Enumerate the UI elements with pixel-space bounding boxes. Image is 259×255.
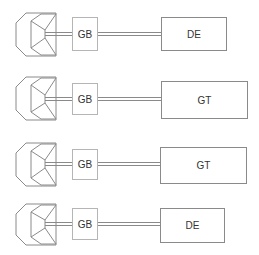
row-4: GBDE	[16, 204, 225, 245]
gearbox-box: GB	[73, 150, 98, 180]
driver-label: GT	[197, 160, 211, 171]
row-2: GBGT	[16, 77, 248, 120]
gearbox-box: GB	[73, 84, 98, 115]
shaft	[45, 223, 160, 226]
gearbox-label: GB	[78, 219, 93, 230]
drivetrain-diagram: GBDEGBGTGBGTGBDE	[0, 0, 259, 255]
gearbox-label: GB	[78, 159, 93, 170]
shaft	[45, 163, 160, 166]
gearbox-box: GB	[73, 18, 98, 51]
row-1: GBDE	[16, 13, 227, 56]
shaft	[45, 33, 161, 36]
row-3: GBGT	[16, 143, 247, 186]
gearbox-label: GB	[78, 29, 93, 40]
driver-label: DE	[187, 29, 201, 40]
engine-inlet-icon	[16, 204, 56, 245]
gearbox-label: GB	[78, 94, 93, 105]
gearbox-box: GB	[73, 209, 98, 240]
shaft	[45, 98, 161, 101]
driver-label: GT	[198, 95, 212, 106]
diesel-engine-box: DE	[162, 18, 227, 51]
diesel-engine-box: DE	[161, 209, 225, 243]
gas-turbine-box: GT	[162, 82, 248, 119]
engine-inlet-icon	[16, 143, 56, 186]
driver-label: DE	[186, 220, 200, 231]
gas-turbine-box: GT	[161, 148, 247, 184]
engine-inlet-icon	[16, 13, 56, 56]
engine-inlet-icon	[16, 77, 56, 120]
